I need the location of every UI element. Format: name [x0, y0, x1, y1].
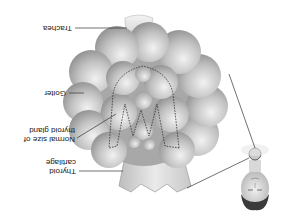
goiter-mass	[63, 22, 228, 168]
goiter-illustration: Trachea Goiter Normal size of thyroid gl…	[0, 0, 289, 224]
label-normal-size-line1: Normal size of	[24, 135, 75, 144]
anatomy-drawing	[0, 0, 289, 224]
person-head-inset	[241, 144, 269, 210]
label-goiter: Goiter	[44, 89, 66, 98]
label-thyroid-cartilage-line2: cartilage	[46, 158, 76, 167]
inset-connector-line-2	[229, 74, 255, 148]
label-normal-size-line2: thyroid gland	[29, 126, 75, 135]
label-thyroid-cartilage-line1: Thyroid	[49, 167, 76, 176]
label-trachea: Trachea	[43, 24, 72, 33]
rotated-figure-content: Trachea Goiter Normal size of thyroid gl…	[0, 0, 289, 224]
inset-connector-line-1	[187, 158, 249, 188]
